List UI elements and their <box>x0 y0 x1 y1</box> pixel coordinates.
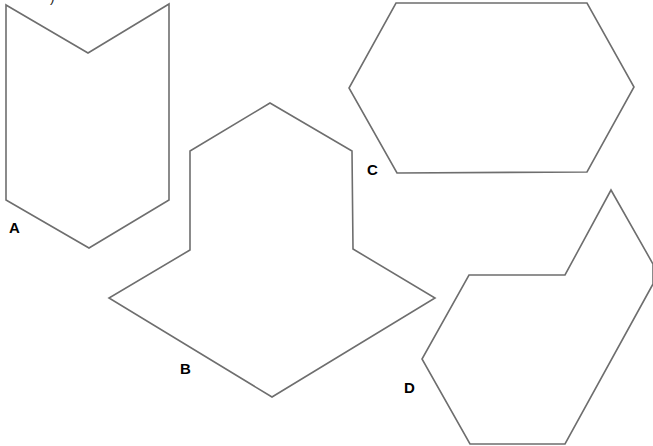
shapes-diagram <box>0 0 653 446</box>
label-c: C <box>367 162 378 177</box>
shape-c-outline <box>349 3 634 173</box>
shape-d-outline <box>422 190 653 444</box>
label-b: B <box>180 361 191 376</box>
shape-a-outline <box>6 4 169 248</box>
label-d: D <box>404 380 415 395</box>
label-a: A <box>9 220 20 235</box>
cut-off-caption-fragment: ) <box>50 0 55 4</box>
